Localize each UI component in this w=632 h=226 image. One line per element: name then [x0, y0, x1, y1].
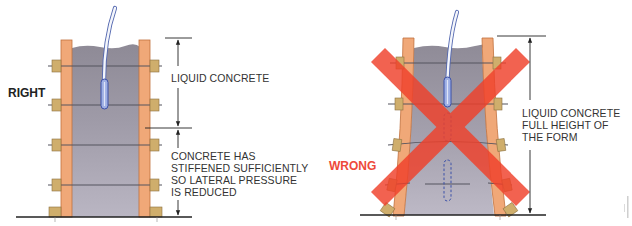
concrete-form-diagram: RIGHT LIQUID CONCRETE CONCRETE HAS STIFF…	[0, 0, 632, 226]
svg-text:IS REDUCED: IS REDUCED	[171, 186, 237, 198]
svg-text:SO LATERAL PRESSURE: SO LATERAL PRESSURE	[171, 174, 297, 186]
wrong-panel: WRONG LIQUID CONCRETE FULL HEIGHT OF THE…	[329, 12, 620, 220]
side-credit-mark	[624, 196, 629, 218]
svg-text:STIFFENED SUFFICIENTLY: STIFFENED SUFFICIENTLY	[171, 162, 308, 174]
right-verdict-label: RIGHT	[8, 86, 46, 100]
svg-text:LIQUID CONCRETE: LIQUID CONCRETE	[522, 107, 620, 119]
stiffened-concrete-label: CONCRETE HAS STIFFENED SUFFICIENTLY SO L…	[171, 150, 308, 198]
full-height-label: LIQUID CONCRETE FULL HEIGHT OF THE FORM	[522, 107, 620, 143]
liquid-concrete-label: LIQUID CONCRETE	[171, 72, 269, 84]
svg-text:THE FORM: THE FORM	[522, 131, 578, 143]
svg-text:CONCRETE HAS: CONCRETE HAS	[171, 150, 256, 162]
svg-text:FULL HEIGHT OF: FULL HEIGHT OF	[522, 119, 609, 131]
wrong-verdict-label: WRONG	[329, 159, 376, 173]
right-panel: RIGHT LIQUID CONCRETE CONCRETE HAS STIFF…	[8, 8, 308, 222]
